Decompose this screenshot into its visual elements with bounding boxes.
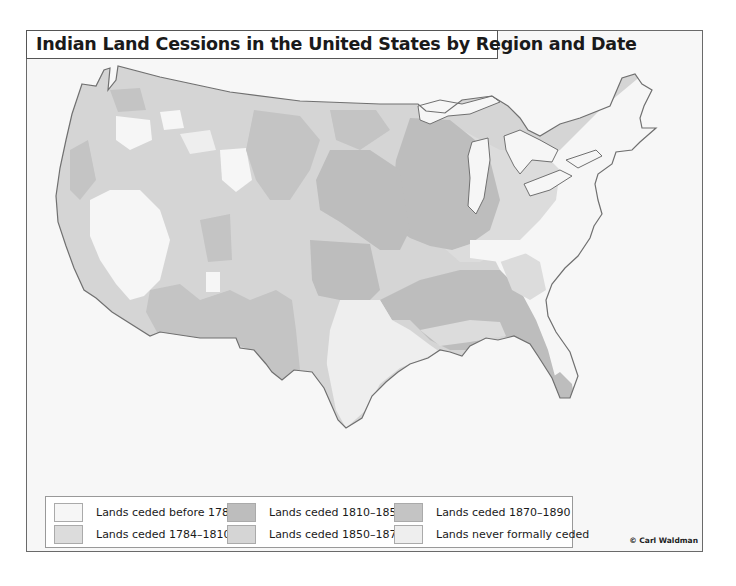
map-title-box: Indian Land Cessions in the United State… [26, 30, 498, 59]
legend-item-1810-1850: Lands ceded 1810–1850 [227, 503, 404, 522]
legend-swatch [54, 503, 83, 522]
legend-swatch [394, 503, 423, 522]
map-legend: Lands ceded before 1784 Lands ceded 1810… [45, 496, 573, 548]
map-title: Indian Land Cessions in the United State… [36, 34, 637, 54]
legend-label: Lands ceded 1810–1850 [269, 506, 404, 519]
legend-swatch [394, 525, 423, 544]
legend-item-1850-1870: Lands ceded 1850–1870 [227, 525, 404, 544]
legend-label: Lands ceded 1850–1870 [269, 528, 404, 541]
legend-swatch [54, 525, 83, 544]
legend-item-before-1784: Lands ceded before 1784 [54, 503, 236, 522]
legend-item-1870-1890: Lands ceded 1870–1890 [394, 503, 571, 522]
legend-label: Lands ceded before 1784 [96, 506, 236, 519]
legend-item-never-ceded: Lands never formally ceded [394, 525, 589, 544]
legend-swatch [227, 503, 256, 522]
map-credit: © Carl Waldman [629, 536, 698, 545]
legend-item-1784-1810: Lands ceded 1784–1810 [54, 525, 231, 544]
legend-label: Lands ceded 1784–1810 [96, 528, 231, 541]
legend-label: Lands never formally ceded [436, 528, 589, 541]
legend-swatch [227, 525, 256, 544]
legend-label: Lands ceded 1870–1890 [436, 506, 571, 519]
